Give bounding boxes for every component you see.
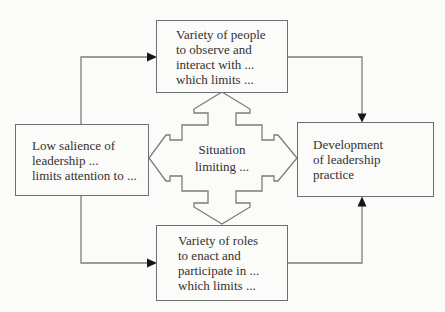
box-development-of-practice: Development of leadership practice xyxy=(297,122,434,197)
box-text-line: to observe and xyxy=(176,42,287,57)
diagram-canvas: Variety of people to observe and interac… xyxy=(0,0,445,312)
box-text-line: Development xyxy=(313,137,433,152)
box-text-line: Low salience of xyxy=(32,138,148,153)
box-low-salience: Low salience of leadership ... limits at… xyxy=(15,124,149,196)
center-text-line: Situation xyxy=(199,141,246,158)
box-text-line: of leadership xyxy=(313,152,433,167)
box-variety-of-people: Variety of people to observe and interac… xyxy=(156,20,288,93)
box-text-line: which limits ... xyxy=(176,72,287,87)
center-text-line: limiting ... xyxy=(195,158,249,175)
connector-left-to-top xyxy=(81,57,148,124)
box-text-line: practice xyxy=(313,167,433,182)
box-text-line: which limits ... xyxy=(178,278,287,293)
box-variety-of-roles: Variety of roles to enact and participat… xyxy=(156,225,288,301)
center-situation-label: Situation limiting ... xyxy=(182,125,262,191)
box-text-line: Variety of people xyxy=(176,27,287,42)
box-text-line: participate in ... xyxy=(178,263,287,278)
connector-left-to-bottom xyxy=(81,196,148,263)
box-text-line: Variety of roles xyxy=(178,233,287,248)
box-text-line: leadership ... xyxy=(32,153,148,168)
box-text-line: to enact and xyxy=(178,248,287,263)
connector-bottom-to-right xyxy=(288,205,362,263)
arrowhead-into-right-box-bottom xyxy=(358,197,367,207)
box-text-line: interact with ... xyxy=(176,57,287,72)
connector-top-to-right xyxy=(288,57,362,114)
box-text-line: limits attention to ... xyxy=(32,168,148,183)
